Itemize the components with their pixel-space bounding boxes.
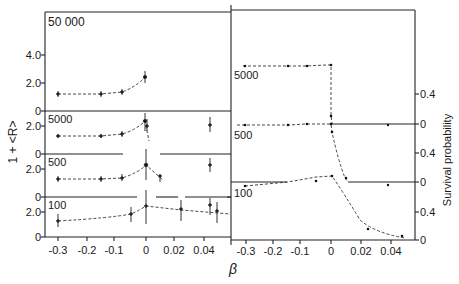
xtick-right-0: -0.3 (237, 245, 256, 257)
xtick-left-5: 0.04 (193, 244, 214, 256)
panel-label-500: 500 (48, 156, 66, 168)
ytick-0-d: 0 (35, 231, 41, 243)
series-100-curve (58, 206, 230, 221)
figure: 50 000 5000 500 100 4.0 2.0 0 2.0 0 2.0 … (0, 0, 459, 284)
right-panel-label-100: 100 (234, 187, 252, 199)
xtick-left-3: 0 (143, 244, 149, 256)
right-ytick-0-c: 0 (420, 234, 426, 246)
xtick-right-3: 0 (328, 245, 334, 257)
panel-label-100: 100 (48, 199, 66, 211)
xtick-right-4: 0.02 (350, 245, 371, 257)
right-panel-label-500: 500 (234, 129, 252, 141)
right-ytick-0-a: 0 (420, 118, 426, 130)
right-series-100-curve (245, 176, 405, 238)
xtick-right-1: -0.2 (264, 245, 283, 257)
xtick-right-2: -0.1 (291, 245, 310, 257)
xtick-right-5: 0.04 (380, 245, 401, 257)
right-ytick-0-4-b: 0.4 (420, 147, 435, 159)
panel-label-50000: 50 000 (48, 15, 85, 29)
xtick-left-2: -0.1 (105, 244, 124, 256)
ytick-4-0: 4.0 (26, 49, 41, 61)
x-axis-label-left: β (228, 261, 237, 277)
ytick-2-0-d: 2.0 (26, 206, 41, 218)
series-500-curve (58, 165, 163, 180)
panel-label-5000: 5000 (48, 113, 72, 125)
xtick-left-4: 0.02 (163, 244, 184, 256)
ytick-0-c: 0 (35, 191, 41, 203)
ytick-2-0-a: 2.0 (26, 77, 41, 89)
ytick-0-b: 0 (35, 148, 41, 160)
ytick-0-a: 0 (35, 105, 41, 117)
y-axis-label-left: 1 + <R> (6, 120, 20, 163)
y-axis-label-right: Survival probability (441, 113, 453, 206)
ytick-2-0-b: 2.0 (26, 120, 41, 132)
ytick-2-0-c: 2.0 (26, 163, 41, 175)
right-panel-label-5000: 5000 (234, 69, 258, 81)
xtick-left-1: -0.2 (78, 244, 97, 256)
right-ytick-0-b: 0 (420, 176, 426, 188)
right-ytick-0-4-a: 0.4 (420, 88, 435, 100)
right-ytick-0-4-c: 0.4 (420, 206, 435, 218)
xtick-left-0: -0.3 (49, 244, 68, 256)
